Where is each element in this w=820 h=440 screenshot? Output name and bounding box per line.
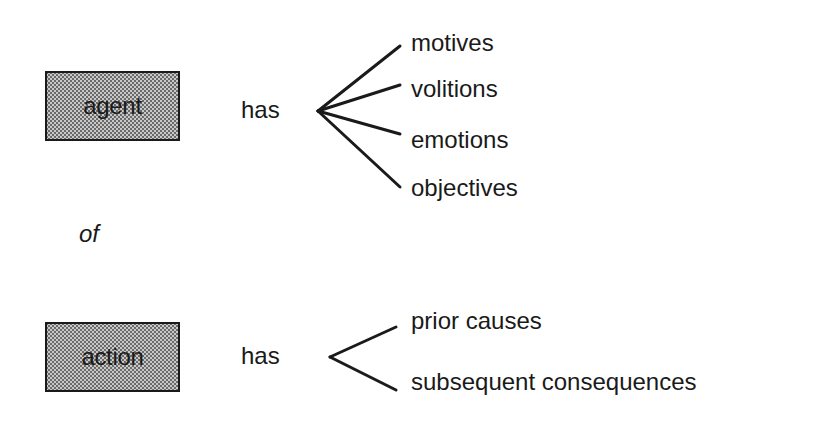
agent-has-label: has	[241, 98, 280, 122]
action-attribute-subsequent-consequences: subsequent consequences	[411, 370, 697, 394]
agent-fan-lines	[318, 46, 400, 187]
agent-line-objectives	[318, 111, 400, 187]
agent-line-motives	[318, 46, 400, 111]
agent-label: agent	[83, 92, 142, 120]
agent-line-volitions	[318, 85, 400, 111]
agent-attribute-motives: motives	[411, 31, 494, 55]
action-fan-lines	[330, 327, 396, 390]
action-line-prior-causes	[330, 327, 396, 357]
agent-attribute-emotions: emotions	[411, 128, 508, 152]
action-has-label: has	[241, 344, 280, 368]
action-label: action	[81, 343, 143, 371]
action-line-subsequent-consequences	[330, 357, 396, 390]
agent-line-emotions	[318, 111, 400, 134]
agent-attribute-volitions: volitions	[411, 77, 498, 101]
action-box: action	[45, 322, 180, 392]
action-attribute-prior-causes: prior causes	[411, 309, 542, 333]
agent-box: agent	[45, 71, 180, 141]
of-connector-label: of	[79, 222, 99, 246]
agent-attribute-objectives: objectives	[411, 176, 518, 200]
